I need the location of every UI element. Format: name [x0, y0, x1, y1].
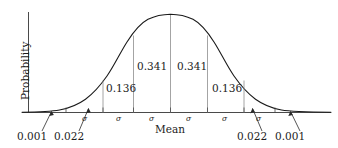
tail-label-right-022: 0.022: [237, 131, 267, 142]
tail-label-left-022: 0.022: [54, 131, 84, 142]
sigma-label-3: σ: [149, 115, 154, 123]
band-label-left-136: 0.136: [106, 83, 136, 94]
y-axis-label: Probability: [19, 42, 31, 100]
tail-label-right-001: 0.001: [275, 131, 305, 142]
sigma-label-1: σ: [82, 115, 87, 123]
x-axis-label: Mean: [155, 124, 185, 135]
sigma-label-6: σ: [256, 115, 261, 123]
band-label-left-341: 0.341: [137, 61, 167, 72]
leader-arrow-right-001: [288, 111, 300, 131]
sigma-label-4: σ: [186, 115, 191, 123]
leader-arrow-left-001: [42, 111, 54, 131]
band-label-right-136: 0.136: [212, 83, 242, 94]
tail-label-left-001: 0.001: [17, 131, 47, 142]
sigma-label-2: σ: [116, 115, 121, 123]
band-label-right-341: 0.341: [177, 61, 207, 72]
sigma-label-5: σ: [222, 115, 227, 123]
normal-distribution-figure: Probability Mean 0.136 0.341 0.341 0.136…: [0, 0, 338, 148]
